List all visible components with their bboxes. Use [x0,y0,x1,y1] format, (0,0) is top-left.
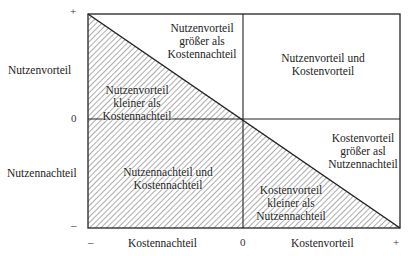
x-tick-left: – [88,236,94,248]
y-tick-bottom: – [71,219,77,231]
y-tick-top: + [70,5,76,17]
benefit-cost-quadrant-diagram: + 0 – Nutzenvorteil Nutzennachteil – 0 +… [0,0,410,256]
y-tick-zero: 0 [71,112,77,124]
x-tick-right: + [393,236,399,248]
region-benefit-and-cost-advantage: Nutzenvorteil und Kostenvorteil [278,52,368,78]
x-tick-zero: 0 [240,236,246,248]
region-cost-advantage-less-than-benefit-disadvantage: Kostenvorteil kleiner als Nutzennachteil [252,184,330,223]
region-benefit-greater-than-cost-disadvantage: Nutzenvorteil größer als Kostennachteil [163,22,241,61]
y-axis-label-negative: Nutzennachteil [7,167,77,180]
region-benefit-less-than-cost-disadvantage: Nutzenvorteil kleiner als Kostennachteil [98,84,176,123]
x-axis-label-negative: Kostennachteil [128,237,197,250]
region-cost-advantage-greater-than-benefit-disadvantage: Kostenvorteil größer asl Nutzennachteil [323,132,403,171]
x-axis-label-positive: Kostenvorteil [291,237,354,250]
region-benefit-and-cost-disadvantage: Nutzennachteil und Kostennachteil [118,166,218,192]
y-axis-label-positive: Nutzenvorteil [8,64,71,77]
